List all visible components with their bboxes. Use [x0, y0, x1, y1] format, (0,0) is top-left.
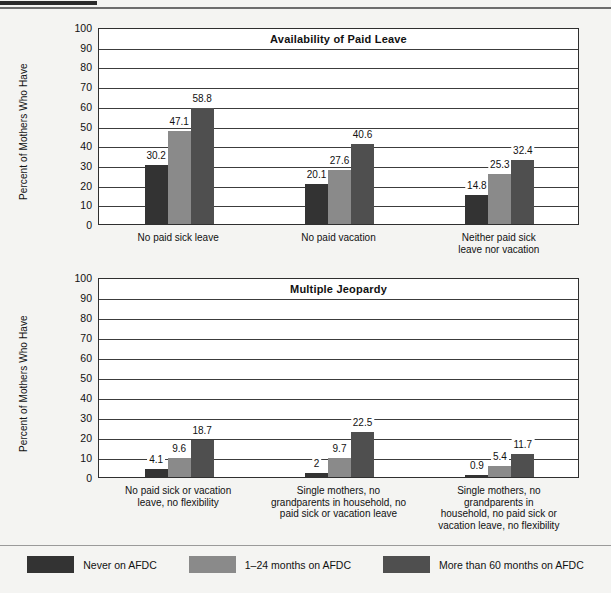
legend-swatch-darkgray-icon — [383, 556, 430, 573]
y-tick-label: 100 — [74, 273, 92, 284]
bar-group: 20.127.640.6 — [305, 29, 374, 224]
grid-line — [99, 299, 578, 300]
grid-line — [99, 147, 578, 148]
grid-line — [99, 88, 578, 89]
grid-line — [99, 359, 578, 360]
grid-line — [99, 379, 578, 380]
y-tick-label: 90 — [80, 42, 92, 53]
grid-line — [99, 187, 578, 188]
bar-value-label: 22.5 — [351, 417, 374, 428]
bar-value-label: 47.1 — [167, 116, 190, 127]
bar-value-label: 40.6 — [351, 129, 374, 140]
chart-title: Availability of Paid Leave — [99, 33, 578, 45]
y-tick-label: 60 — [80, 102, 92, 113]
x-tick-label: Neither paid sick leave nor vacation — [419, 232, 579, 255]
bar: 30.2 — [145, 165, 168, 224]
chart-legend: Never on AFDC1–24 months on AFDCMore tha… — [0, 556, 611, 573]
x-tick-label: No paid vacation — [258, 232, 418, 244]
grid-line — [99, 339, 578, 340]
page-header-strip — [0, 0, 611, 9]
y-axis-label: Percent of Mothers Who Have — [18, 63, 29, 200]
grid-line — [99, 319, 578, 320]
y-tick-label: 30 — [80, 161, 92, 172]
bar: 18.7 — [191, 440, 214, 477]
legend-item: 1–24 months on AFDC — [189, 556, 351, 573]
bar: 20.1 — [305, 184, 328, 224]
bar-value-label: 30.2 — [144, 150, 167, 161]
bar-group: 30.247.158.8 — [145, 29, 214, 224]
bar-value-label: 32.4 — [511, 145, 534, 156]
bar: 32.4 — [511, 160, 534, 224]
bar-value-label: 9.6 — [170, 443, 188, 454]
grid-line — [99, 419, 578, 420]
bar: 40.6 — [351, 144, 374, 224]
bar-group: 4.19.618.7 — [145, 279, 214, 477]
bar-value-label: 20.1 — [305, 169, 328, 180]
bar: 22.5 — [351, 432, 374, 477]
y-tick-label: 0 — [86, 220, 92, 231]
y-tick-label: 60 — [80, 353, 92, 364]
y-tick-label: 90 — [80, 293, 92, 304]
legend-swatch-dark-icon — [27, 556, 74, 573]
bar-group: 29.722.5 — [305, 279, 374, 477]
bar-value-label: 25.3 — [488, 159, 511, 170]
bar: 9.6 — [168, 458, 191, 477]
x-tick-label: Single mothers, no grandparents in house… — [258, 485, 418, 520]
y-tick-label: 80 — [80, 62, 92, 73]
bar: 27.6 — [328, 170, 351, 224]
grid-line — [99, 439, 578, 440]
y-tick-label: 70 — [80, 333, 92, 344]
bar: 25.3 — [488, 174, 511, 224]
grid-line — [99, 68, 578, 69]
y-tick-label: 50 — [80, 373, 92, 384]
grid-line — [99, 399, 578, 400]
bar-value-label: 4.1 — [147, 454, 165, 465]
chart-availability-of-paid-leave: Percent of Mothers Who Have0102030405060… — [0, 0, 611, 593]
bar-value-label: 11.7 — [511, 439, 534, 450]
y-tick-label: 30 — [80, 413, 92, 424]
bar: 58.8 — [191, 108, 214, 224]
legend-item: Never on AFDC — [27, 556, 157, 573]
y-tick-label: 100 — [74, 23, 92, 34]
bar-value-label: 2 — [312, 458, 322, 469]
grid-line — [99, 108, 578, 109]
header-tab-fragment — [0, 1, 97, 5]
plot-area: Multiple Jeopardy4.19.618.729.722.50.95.… — [98, 278, 579, 478]
y-tick-label: 20 — [80, 180, 92, 191]
bar-value-label: 5.4 — [491, 451, 509, 462]
legend-label: Never on AFDC — [83, 559, 157, 571]
bar-value-label: 9.7 — [331, 443, 349, 454]
y-tick-label: 50 — [80, 121, 92, 132]
bar: 11.7 — [511, 454, 534, 477]
bar: 9.7 — [328, 458, 351, 477]
chart-multiple-jeopardy: Percent of Mothers Who Have0102030405060… — [0, 0, 611, 593]
bar: 0.9 — [465, 475, 488, 477]
plot-area: Availability of Paid Leave30.247.158.820… — [98, 28, 579, 225]
grid-line — [99, 128, 578, 129]
bar: 47.1 — [168, 131, 191, 224]
grid-line — [99, 206, 578, 207]
x-tick-label: Single mothers, no grandparents in house… — [419, 485, 579, 531]
y-tick-label: 40 — [80, 393, 92, 404]
bar-value-label: 14.8 — [465, 180, 488, 191]
y-tick-label: 0 — [86, 473, 92, 484]
y-tick-label: 70 — [80, 82, 92, 93]
grid-line — [99, 167, 578, 168]
grid-line — [99, 49, 578, 50]
chart-title: Multiple Jeopardy — [99, 283, 578, 295]
bar-value-label: 58.8 — [190, 93, 213, 104]
bar-group: 0.95.411.7 — [465, 279, 534, 477]
header-divider-rule — [0, 7, 611, 9]
bar-value-label: 27.6 — [328, 155, 351, 166]
legend-divider — [0, 545, 611, 546]
x-tick-label: No paid sick leave — [98, 232, 258, 244]
y-tick-label: 40 — [80, 141, 92, 152]
legend-label: 1–24 months on AFDC — [245, 559, 351, 571]
legend-label: More than 60 months on AFDC — [439, 559, 584, 571]
y-axis-label: Percent of Mothers Who Have — [18, 315, 29, 452]
bar: 4.1 — [145, 469, 168, 477]
bar: 5.4 — [488, 466, 511, 477]
legend-swatch-medium-icon — [189, 556, 236, 573]
bar-value-label: 0.9 — [468, 460, 486, 471]
y-tick-label: 10 — [80, 200, 92, 211]
